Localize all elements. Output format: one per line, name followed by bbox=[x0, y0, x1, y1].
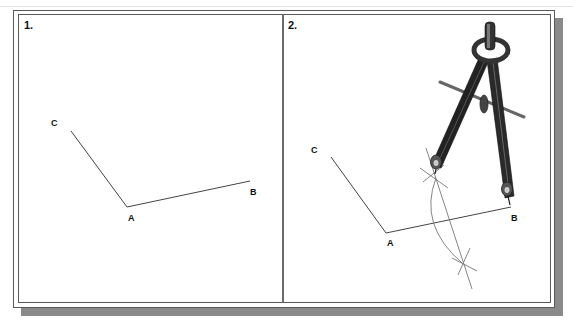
compass-right-leg bbox=[487, 58, 514, 198]
compass-handle-shine bbox=[487, 24, 490, 48]
construction-marks bbox=[420, 148, 477, 289]
panel-1-angle bbox=[71, 131, 250, 207]
construction-drawing bbox=[0, 0, 573, 321]
compass-right-leg-highlight bbox=[493, 62, 509, 192]
compass-right-knuckle-screw bbox=[505, 187, 510, 193]
compass-adjust-wheel bbox=[480, 95, 488, 113]
compass-pencil-tip bbox=[435, 169, 436, 174]
panel-1-angle-lines bbox=[71, 131, 250, 207]
compass-icon bbox=[431, 22, 525, 205]
compass-left-leg-highlight bbox=[437, 62, 484, 165]
compass-left-knuckle-screw bbox=[434, 160, 439, 166]
bisector-line bbox=[426, 148, 472, 289]
